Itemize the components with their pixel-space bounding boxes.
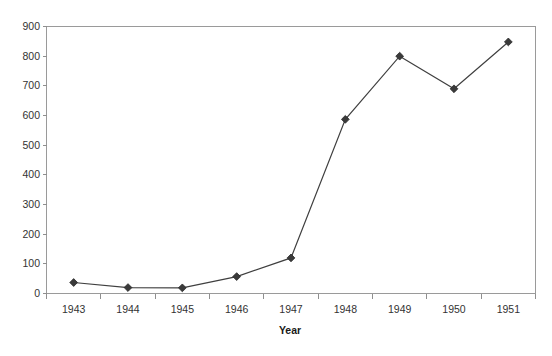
x-axis-tick-labels: 194319441945194619471948194919501951	[62, 303, 520, 315]
x-axis-title: Year	[279, 324, 301, 336]
line-chart: 0100200300400500600700800900 19431944194…	[0, 0, 552, 356]
x-axis-tick-label: 1945	[171, 303, 195, 315]
y-axis-tick-label: 600	[22, 109, 40, 121]
x-axis-tick-label: 1947	[279, 303, 303, 315]
x-axis-tick-label: 1950	[442, 303, 466, 315]
y-axis-tick-label: 100	[22, 257, 40, 269]
y-axis-tick-label: 700	[22, 79, 40, 91]
chart-canvas: 0100200300400500600700800900 19431944194…	[0, 0, 552, 356]
y-axis-tick-label: 800	[22, 50, 40, 62]
y-axis-tick-label: 0	[34, 287, 40, 299]
x-axis-tick-label: 1944	[116, 303, 140, 315]
y-axis-tick-label: 500	[22, 139, 40, 151]
x-axis-tick-label: 1946	[225, 303, 249, 315]
x-axis-tick-label: 1943	[62, 303, 86, 315]
x-axis-tick-label: 1951	[497, 303, 521, 315]
y-axis-tick-label: 200	[22, 228, 40, 240]
y-axis-tick-label: 400	[22, 168, 40, 180]
x-axis-tick-label: 1949	[388, 303, 412, 315]
y-axis-tick-label: 300	[22, 198, 40, 210]
y-axis-tick-label: 900	[22, 20, 40, 32]
x-axis-tick-label: 1948	[334, 303, 358, 315]
